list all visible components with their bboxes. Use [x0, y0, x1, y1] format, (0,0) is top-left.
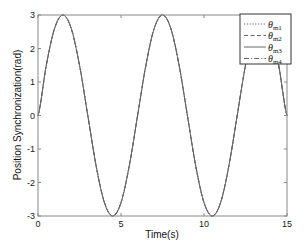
y-tick-label: -1: [27, 144, 35, 154]
x-tick-label: 5: [118, 219, 123, 229]
x-tick-label: 10: [199, 219, 209, 229]
legend: θm1θm2θm3θm4: [240, 14, 291, 66]
x-tick-label: 15: [282, 219, 292, 229]
y-tick-label: -3: [27, 211, 35, 221]
x-axis-label: Time(s): [145, 229, 179, 240]
y-tick-label: 2: [30, 44, 35, 54]
position-sync-chart: -3-2-10123 051015 Time(s) Position Synch…: [0, 0, 306, 249]
y-tick-label: 3: [30, 10, 35, 20]
legend-box: [240, 14, 291, 64]
x-tick-label: 0: [35, 219, 40, 229]
y-tick-label: 0: [30, 111, 35, 121]
y-tick-label: -2: [27, 178, 35, 188]
y-axis-label: Position Synchronization(rad): [12, 50, 23, 181]
y-tick-label: 1: [30, 77, 35, 87]
